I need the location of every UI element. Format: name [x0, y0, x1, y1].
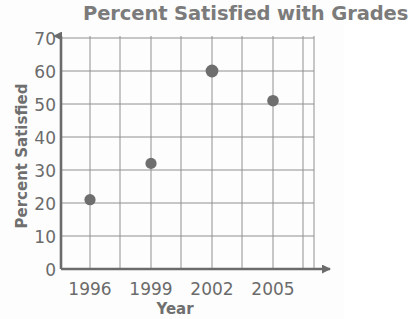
data-point-2002[interactable]	[206, 65, 219, 78]
data-point-2005[interactable]	[267, 95, 279, 107]
data-point-1996[interactable]	[84, 194, 95, 205]
data-points	[84, 65, 278, 206]
horizontal-gridlines	[61, 38, 314, 236]
data-point-1999[interactable]	[145, 158, 156, 169]
